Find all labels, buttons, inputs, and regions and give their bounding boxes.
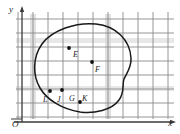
y-axis <box>20 6 24 122</box>
point-marker-J <box>60 88 64 92</box>
point-label-F: F <box>95 66 100 74</box>
point-label-G: G <box>69 95 75 103</box>
figure-canvas <box>0 0 180 134</box>
x-axis-label: x <box>168 119 172 128</box>
point-label-J: J <box>57 96 61 104</box>
point-label-L: L <box>43 96 47 104</box>
x-axis <box>14 120 176 124</box>
coordinate-grid-figure: y x O E F L J G K <box>0 0 180 134</box>
point-label-E: E <box>73 51 78 59</box>
point-marker-F <box>90 60 94 64</box>
origin-label: O <box>12 120 19 129</box>
point-marker-E <box>67 46 71 50</box>
point-marker-L <box>48 89 52 93</box>
y-axis-label: y <box>9 5 13 14</box>
point-label-K: K <box>82 95 87 103</box>
